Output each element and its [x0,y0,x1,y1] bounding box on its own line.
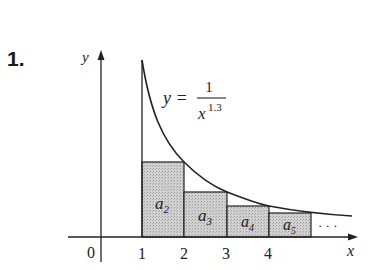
riemann-sum-figure: 1. y = 1 x 1.3 y x 0 1 2 3 4 a2 a3 a4 a5… [0,0,371,270]
curve-label: y = 1 x 1.3 [161,79,226,123]
curve-label-exponent: 1.3 [208,101,222,113]
tick-3: 3 [222,245,230,262]
tick-2: 2 [180,245,188,262]
y-axis-label: y [80,49,89,65]
x-axis-label: x [346,242,354,259]
tick-1: 1 [138,245,146,262]
continuation-dots: · · · [318,218,338,233]
curve-label-numerator: 1 [205,79,213,95]
problem-number: 1. [7,47,25,70]
y-axis-arrow-icon [98,50,105,60]
tick-0: 0 [87,244,95,261]
x-axis-arrow-icon [348,234,358,241]
tick-4: 4 [264,245,272,262]
curve-label-lhs: y = [161,88,188,108]
curve-label-base: x [197,104,206,123]
